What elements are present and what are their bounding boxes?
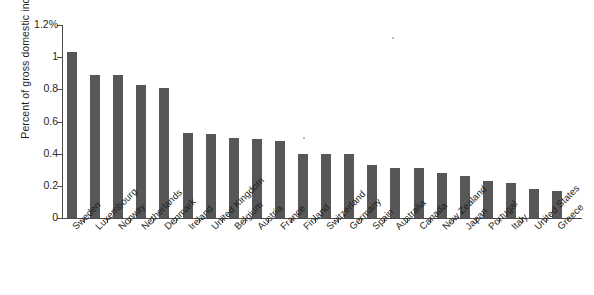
y-tick-label: 0: [52, 211, 58, 223]
y-tick-label: 1.2%: [34, 18, 58, 30]
y-tick-label: 1: [52, 50, 58, 62]
y-tick-label: 0.4: [43, 147, 58, 159]
plot-area: 00.20.40.60.811.2%: [62, 25, 582, 219]
bar: [136, 85, 146, 218]
y-axis-line: [62, 25, 63, 219]
y-tick-label: 0.2: [43, 179, 58, 191]
bar: [529, 189, 539, 218]
bar-chart: Percent of gross domestic income 00.20.4…: [0, 0, 594, 295]
y-axis-title: Percent of gross domestic income: [19, 0, 31, 153]
bar: [90, 75, 100, 218]
x-axis-labels: SwedenLuxembourgNorwayNetherlandsDenmark…: [62, 224, 594, 295]
y-tick-label: 0.6: [43, 115, 58, 127]
bar: [67, 52, 77, 218]
scan-speck: [392, 37, 394, 39]
scan-speck: [303, 137, 305, 139]
y-tick-label: 0.8: [43, 82, 58, 94]
